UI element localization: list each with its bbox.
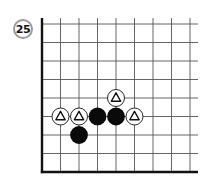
black-stone-icon <box>107 108 125 126</box>
black-stone <box>70 126 88 144</box>
white-stone <box>52 108 69 125</box>
white-stone <box>71 108 88 125</box>
white-stone <box>126 108 143 125</box>
go-board <box>0 0 213 186</box>
black-stone-icon <box>70 126 88 144</box>
black-stone-icon <box>89 108 107 126</box>
black-stone <box>107 108 125 126</box>
white-stone-icon <box>126 108 143 125</box>
white-stone <box>108 90 125 107</box>
white-stone-icon <box>71 108 88 125</box>
white-stone-icon <box>108 90 125 107</box>
white-stone-icon <box>52 108 69 125</box>
black-stone <box>89 108 107 126</box>
